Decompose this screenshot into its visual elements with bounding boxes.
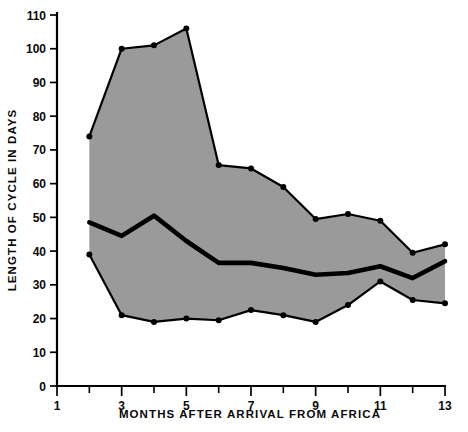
- x-axis-ticks: [57, 386, 445, 396]
- x-axis-title: MONTHS AFTER ARRIVAL FROM AFRICA: [119, 408, 381, 420]
- svg-text:80: 80: [33, 110, 47, 124]
- svg-text:10: 10: [33, 346, 47, 360]
- y-axis-title: LENGTH OF CYCLE IN DAYS: [6, 109, 18, 292]
- svg-text:100: 100: [26, 42, 46, 56]
- range-band-area: [89, 28, 445, 321]
- svg-text:20: 20: [33, 312, 47, 326]
- svg-text:60: 60: [33, 177, 47, 191]
- svg-text:1: 1: [54, 399, 61, 413]
- y-axis-tick-labels: 0102030405060708090100110: [26, 9, 46, 394]
- svg-text:70: 70: [33, 143, 47, 157]
- svg-text:13: 13: [438, 399, 452, 413]
- svg-text:110: 110: [27, 9, 47, 23]
- svg-text:90: 90: [33, 76, 47, 90]
- svg-text:40: 40: [33, 245, 47, 259]
- chart-svg: 0102030405060708090100110 135791113 MONT…: [0, 0, 468, 432]
- svg-text:30: 30: [33, 278, 47, 292]
- svg-text:50: 50: [33, 211, 47, 225]
- chart-figure: 0102030405060708090100110 135791113 MONT…: [0, 0, 468, 432]
- svg-text:0: 0: [39, 380, 46, 394]
